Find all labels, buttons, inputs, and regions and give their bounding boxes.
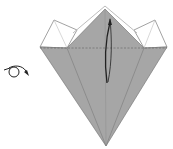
origami-diagram — [0, 0, 173, 149]
turn-over-icon — [4, 66, 29, 77]
